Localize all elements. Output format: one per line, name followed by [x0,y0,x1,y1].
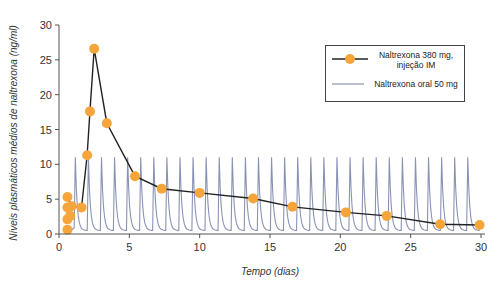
x-tick-label: 25 [405,241,417,253]
y-tick-label: 0 [46,228,52,240]
x-tick-label: 10 [194,241,206,253]
legend-label-im-line2: injeção IM [370,60,462,70]
x-tick-label: 0 [56,241,62,253]
im-data-point [62,225,72,235]
im-data-point [77,203,87,213]
im-data-point [288,202,298,212]
im-data-point [195,188,205,198]
im-data-point [67,201,77,211]
y-axis-label: Níveis plasmáticos médios de naltrexona … [8,25,19,241]
im-data-point [130,171,140,181]
im-data-point [435,219,445,229]
legend: Naltrexona 380 mg, injeção IM Naltrexona… [325,45,465,102]
im-data-point [102,118,112,128]
im-data-point [62,192,72,202]
x-tick-label: 20 [334,241,346,253]
y-tick-label: 10 [40,158,52,170]
x-tick-label: 15 [264,241,276,253]
im-data-point [82,150,92,160]
im-data-point [475,220,485,230]
im-data-point [341,207,351,217]
im-data-point [85,106,95,116]
legend-item-oral: Naltrexona oral 50 mg [368,79,464,89]
x-tick-label: 5 [126,241,132,253]
im-data-point [65,211,75,221]
im-legend-swatch [332,52,368,66]
y-tick-label: 20 [40,89,52,101]
oral-series-line [71,157,480,230]
oral-legend-swatch [332,79,368,89]
im-data-point [382,211,392,221]
legend-label-im-line1: Naltrexona 380 mg, [370,50,462,60]
legend-item-im: Naltrexona 380 mg, injeção IM [370,50,462,70]
im-data-point [89,44,99,54]
y-tick-label: 15 [40,124,52,136]
y-tick-label: 5 [46,193,52,205]
im-data-point [248,193,258,203]
y-tick-label: 30 [40,19,52,31]
im-data-point [157,184,167,194]
x-tick-label: 30 [475,241,487,253]
y-tick-label: 25 [40,54,52,66]
x-axis-label: Tempo (dias) [241,266,299,277]
pk-chart: 051015202530051015202530 Tempo (dias) Ní… [0,0,503,292]
